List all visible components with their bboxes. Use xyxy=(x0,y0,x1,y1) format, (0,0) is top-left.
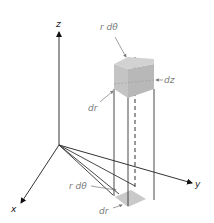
label-r-dtheta-top: r dθ xyxy=(100,22,118,32)
x-axis-label: x xyxy=(10,204,17,214)
x-axis xyxy=(21,145,59,203)
leader-dr-top xyxy=(100,91,113,102)
leader-dr-bottom xyxy=(113,205,122,208)
z-axis-label: z xyxy=(55,19,61,29)
y-axis-label: y xyxy=(194,179,201,189)
label-dr-bottom: dr xyxy=(99,206,110,216)
radial-line-2 xyxy=(59,145,119,194)
label-dz: dz xyxy=(164,75,175,85)
label-r-dtheta-bottom: r dθ xyxy=(69,181,87,191)
label-dr-top: dr xyxy=(88,103,99,113)
cylindrical-volume-element-diagram: z x y r dθ dz dr r dθ dr xyxy=(0,0,214,223)
base-area-element xyxy=(115,190,146,207)
volume-element-front-face xyxy=(128,64,154,98)
leader-r-dtheta-top xyxy=(115,37,126,57)
volume-element-left-face xyxy=(114,64,128,98)
